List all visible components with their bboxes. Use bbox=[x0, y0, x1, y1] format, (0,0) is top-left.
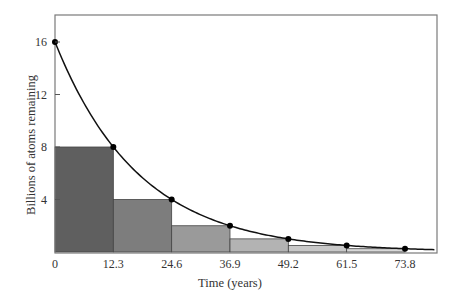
y-axis-title: Billions of atoms remaining bbox=[24, 74, 38, 215]
y-tick-label: 8 bbox=[41, 140, 47, 154]
y-tick-label: 16 bbox=[35, 35, 47, 49]
x-tick-label: 12.3 bbox=[103, 257, 124, 271]
bar-3 bbox=[230, 239, 288, 252]
data-point-6 bbox=[402, 246, 408, 252]
decay-chart: 481216 012.324.636.949.261.573.8 Time (y… bbox=[0, 0, 458, 295]
x-tick-label: 49.2 bbox=[278, 257, 299, 271]
bar-0 bbox=[55, 147, 113, 252]
bar-1 bbox=[113, 200, 171, 253]
x-tick-label: 36.9 bbox=[220, 257, 241, 271]
bars-group bbox=[55, 147, 405, 252]
y-tick-label: 4 bbox=[41, 193, 47, 207]
x-tick-label: 73.8 bbox=[395, 257, 416, 271]
bar-5 bbox=[347, 249, 405, 252]
x-axis-ticks: 012.324.636.949.261.573.8 bbox=[52, 257, 416, 271]
data-point-5 bbox=[344, 242, 350, 248]
x-axis-title: Time (years) bbox=[198, 276, 262, 290]
x-tick-label: 61.5 bbox=[336, 257, 357, 271]
x-tick-label: 0 bbox=[52, 257, 58, 271]
bar-2 bbox=[172, 226, 230, 252]
data-point-3 bbox=[227, 223, 233, 229]
data-point-2 bbox=[169, 197, 175, 203]
bar-4 bbox=[288, 245, 346, 252]
x-tick-label: 24.6 bbox=[161, 257, 182, 271]
data-point-1 bbox=[110, 144, 116, 150]
data-point-4 bbox=[285, 236, 291, 242]
